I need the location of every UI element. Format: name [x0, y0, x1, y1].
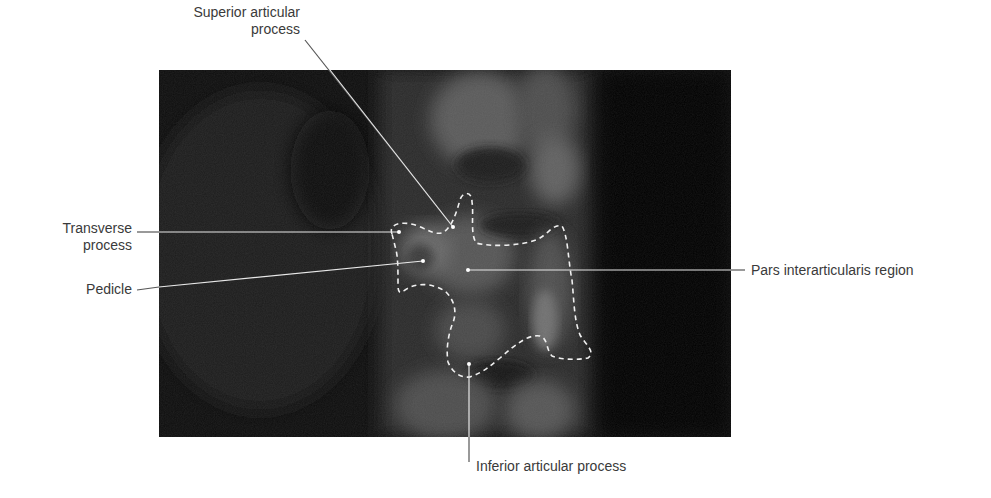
leader-pedicle [137, 287, 159, 290]
label-line: Pars interarticularis region [751, 262, 914, 279]
label-superior-articular-process: Superior articular process [150, 4, 300, 38]
label-line: Pedicle [0, 281, 132, 298]
label-pars-interarticularis: Pars interarticularis region [751, 262, 914, 279]
label-line: Inferior articular process [476, 458, 626, 475]
xray-figure [0, 0, 991, 498]
label-inferior-articular-process: Inferior articular process [476, 458, 626, 475]
label-line: Transverse [0, 220, 132, 237]
label-line: process [150, 21, 300, 38]
label-transverse-process: Transverse process [0, 220, 132, 254]
figure-stage: Superior articular process Transverse pr… [0, 0, 991, 498]
label-pedicle: Pedicle [0, 281, 132, 298]
xray-image [140, 65, 731, 440]
label-line: process [0, 237, 132, 254]
label-line: Superior articular [150, 4, 300, 21]
